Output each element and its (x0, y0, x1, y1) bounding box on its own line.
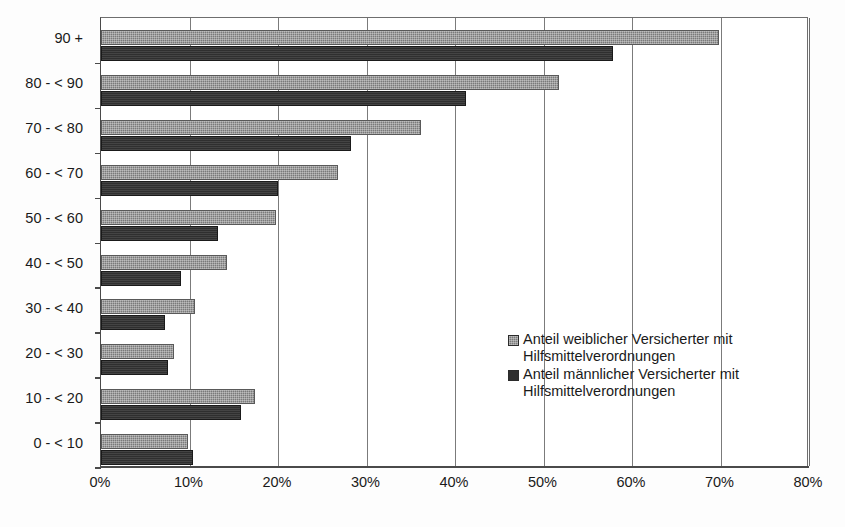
legend-swatch-male-icon (508, 370, 519, 381)
y-axis-tick (95, 243, 101, 245)
y-axis-tick (95, 153, 101, 155)
y-axis-label: 40 - < 50 (25, 256, 83, 271)
legend-swatch-female-icon (508, 335, 519, 346)
y-axis-tick (95, 377, 101, 379)
legend-item-male[interactable]: Anteil männlicher Versicherter mit Hilfs… (508, 366, 838, 400)
x-axis-label: 70% (705, 473, 734, 491)
x-axis-label: 40% (439, 473, 468, 491)
x-axis-labels: 0%10%20%30%40%50%60%70%80% (0, 473, 845, 499)
y-axis-tick (95, 63, 101, 65)
y-axis-tick (95, 287, 101, 289)
x-axis-label: 10% (174, 473, 203, 491)
x-axis-label: 30% (351, 473, 380, 491)
x-axis-label: 50% (528, 473, 557, 491)
x-axis-label: 20% (262, 473, 291, 491)
y-axis-label: 60 - < 70 (25, 166, 83, 181)
y-axis-tick (95, 422, 101, 424)
x-axis-label: 60% (616, 473, 645, 491)
bar-chart: 90 +80 - < 9070 - < 8060 - < 7050 - < 60… (0, 0, 845, 527)
y-axis-label: 10 - < 20 (25, 391, 83, 406)
x-axis-label: 0% (90, 473, 111, 491)
y-axis-label: 50 - < 60 (25, 211, 83, 226)
y-axis-label: 30 - < 40 (25, 301, 83, 316)
y-axis-label: 90 + (54, 31, 83, 46)
y-axis-tick (95, 332, 101, 334)
legend-label-female: Anteil weiblicher Versicherter mit Hilfs… (523, 331, 823, 365)
x-axis-line (100, 466, 809, 468)
chart-legend: Anteil weiblicher Versicherter mit Hilfs… (508, 331, 838, 401)
legend-label-male: Anteil männlicher Versicherter mit Hilfs… (523, 366, 823, 400)
y-axis-tick (95, 198, 101, 200)
y-axis-tick (95, 108, 101, 110)
y-axis-label: 20 - < 30 (25, 346, 83, 361)
y-axis-label: 80 - < 90 (25, 76, 83, 91)
x-axis-label: 80% (793, 473, 822, 491)
y-axis-label: 0 - < 10 (33, 436, 83, 451)
y-axis-label: 70 - < 80 (25, 121, 83, 136)
legend-item-female[interactable]: Anteil weiblicher Versicherter mit Hilfs… (508, 331, 838, 365)
y-axis-labels: 90 +80 - < 9070 - < 8060 - < 7050 - < 60… (0, 17, 94, 466)
